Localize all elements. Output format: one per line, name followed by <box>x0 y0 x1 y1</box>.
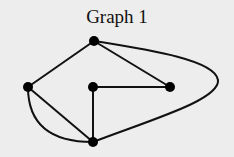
node-top <box>89 36 99 46</box>
node-bottom <box>88 137 98 147</box>
edge-left-bottom <box>28 87 93 142</box>
node-right <box>165 82 175 92</box>
node-left <box>23 82 33 92</box>
node-middle <box>88 82 98 92</box>
edge-top-left <box>28 41 94 87</box>
graph-diagram <box>0 0 234 157</box>
edge-top-bottom-curved <box>93 41 218 142</box>
